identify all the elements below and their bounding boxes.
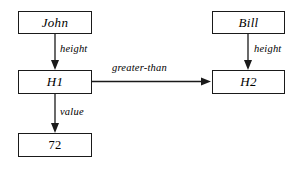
edge-label-height-right: height — [254, 43, 281, 54]
edge-bill-height-h2 — [244, 34, 252, 70]
arrowhead-icon — [51, 60, 59, 70]
edge-label-greater-than: greater-than — [112, 62, 167, 73]
edge-h1-greaterthan-h2 — [92, 78, 211, 86]
edge-label-height-left: height — [60, 43, 87, 54]
edge-john-height-h1 — [51, 34, 59, 70]
node-h1[interactable]: H1 — [18, 70, 92, 94]
edge-label-value: value — [60, 106, 84, 117]
edge-h1-value-72 — [51, 94, 59, 133]
node-label: H1 — [47, 74, 64, 90]
node-value-72[interactable]: 72 — [18, 133, 92, 157]
node-bill[interactable]: Bill — [212, 11, 285, 34]
arrowhead-icon — [244, 60, 252, 70]
arrowhead-icon — [51, 123, 59, 133]
node-label: John — [42, 15, 68, 31]
node-label: 72 — [48, 138, 61, 153]
arrowhead-icon — [201, 78, 211, 86]
node-john[interactable]: John — [18, 11, 92, 34]
node-h2[interactable]: H2 — [212, 70, 285, 94]
node-label: Bill — [239, 15, 259, 31]
node-label: H2 — [240, 74, 257, 90]
diagram-canvas: John H1 72 Bill H2 height value height g… — [0, 0, 302, 172]
